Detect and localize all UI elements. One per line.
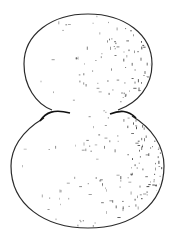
top-sphere-outline <box>24 14 152 110</box>
left-junction-crease <box>40 111 70 121</box>
right-junction-crease <box>110 111 136 118</box>
bottom-sphere-outline <box>11 116 164 228</box>
stippled-figure-eight-drawing <box>0 0 174 248</box>
top-sphere-stipple <box>41 15 151 112</box>
